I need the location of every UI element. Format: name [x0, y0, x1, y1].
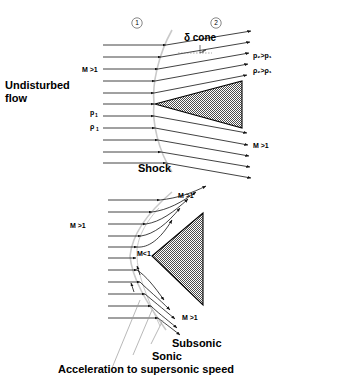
bottom-lower-mach-label: M >1 — [182, 314, 198, 321]
region-marker-2-label: 2 — [214, 19, 218, 26]
upstream-pressure-symbol: p — [90, 109, 94, 117]
sonic-label: Sonic — [152, 350, 182, 362]
subsonic-label: Subsonic — [172, 337, 222, 349]
bottom-upper-mach-label: M >1 — [178, 192, 194, 199]
undisturbed-flow-label-line1: Undisturbed — [5, 79, 70, 91]
downstream-mach-label: M >1 — [253, 142, 269, 149]
shock-label: Shock — [138, 162, 172, 174]
upstream-mach-label: M >1 — [82, 66, 98, 73]
blunt-body — [152, 213, 203, 305]
delta-cone-label: δ cone — [184, 32, 217, 43]
region-marker-1-label: 1 — [135, 19, 139, 26]
bottom-diagram-group: M >1 M >1 M<1 M >1 Subsonic Sonic Accele… — [58, 186, 234, 375]
figure-root: 1 2 — [0, 0, 340, 378]
upstream-density-label: ρ 1 — [90, 123, 99, 132]
downstream-density-label: ρ₂>ρ₁ — [253, 67, 272, 75]
upstream-pressure-label: p 1 — [90, 109, 98, 118]
upstream-pressure-subscript: 1 — [95, 112, 98, 118]
bottom-left-mach-label: M >1 — [70, 222, 86, 229]
stagnation-mach-label: M<1 — [137, 250, 151, 257]
upstream-density-subscript: 1 — [96, 126, 99, 132]
aerodynamics-shock-figure: 1 2 — [0, 0, 340, 378]
acceleration-label: Acceleration to supersonic speed — [58, 363, 234, 375]
undisturbed-flow-label-line2: flow — [5, 92, 27, 104]
top-diagram-group: 1 2 — [5, 18, 272, 178]
region-marker-2: 2 — [211, 18, 221, 28]
cone-body — [155, 81, 242, 128]
bottom-lower-deflected-streamlines — [137, 270, 180, 335]
region-marker-1: 1 — [132, 18, 142, 28]
upstream-density-symbol: ρ — [90, 123, 95, 131]
downstream-pressure-label: p₂>p₁ — [253, 52, 272, 60]
